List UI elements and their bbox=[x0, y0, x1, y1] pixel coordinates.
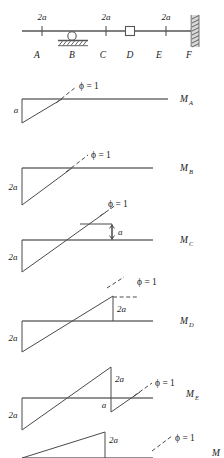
influence-line-M-C: 2a a ϕ = 1 M C bbox=[9, 199, 195, 272]
diagram-label-M-F: M bbox=[211, 448, 221, 458]
phi-label-C: ϕ = 1 bbox=[108, 199, 128, 209]
diagram-label-M-B: M bbox=[179, 163, 189, 173]
node-label-B: B bbox=[69, 50, 75, 60]
span-dimension-3: 2a bbox=[162, 12, 172, 22]
node-label-D: D bbox=[126, 50, 134, 60]
ml-unit-rotation-line-E bbox=[134, 383, 152, 396]
node-label-A: A bbox=[33, 50, 40, 60]
diagram-subscript-E: E bbox=[194, 394, 199, 401]
node-label-E: E bbox=[155, 50, 162, 60]
ordinate-label-a-A: a bbox=[14, 105, 19, 115]
ordinate-label-2a-C: 2a bbox=[9, 252, 19, 262]
diagram-subscript-B: B bbox=[189, 168, 193, 175]
diagram-subscript-C: C bbox=[189, 240, 194, 247]
span-dimension-1: 2a bbox=[38, 12, 48, 22]
roller-support-icon bbox=[58, 32, 88, 46]
phi-label-B: ϕ = 1 bbox=[91, 150, 111, 160]
ml-slope-B bbox=[22, 168, 72, 205]
phi-label-A: ϕ = 1 bbox=[79, 81, 99, 91]
internal-hinge-icon bbox=[126, 27, 135, 36]
ordinate-label-2a-F: 2a bbox=[109, 435, 119, 445]
ordinate-arrow-a-C bbox=[110, 225, 115, 239]
influence-line-M-F: 2a ϕ = 1 M bbox=[22, 432, 221, 458]
diagram-label-M-E: M bbox=[185, 389, 195, 399]
ordinate-label-2a-B: 2a bbox=[9, 182, 19, 192]
ml-unit-rotation-line-A bbox=[56, 87, 76, 103]
ordinate-label-2a-E: 2a bbox=[9, 410, 19, 420]
phi-label-E: ϕ = 1 bbox=[155, 378, 175, 388]
ml-unit-rotation-line-D bbox=[107, 277, 124, 288]
ordinate-label-a-C: a bbox=[118, 227, 123, 237]
ordinate-label-a-E: a bbox=[102, 400, 107, 410]
ml-slope-D bbox=[22, 296, 113, 352]
ordinate-label-2a-D: 2a bbox=[9, 333, 19, 343]
influence-line-M-B: 2a ϕ = 1 M B bbox=[9, 150, 194, 205]
diagram-subscript-A: A bbox=[188, 99, 193, 106]
fixed-support-icon bbox=[192, 15, 200, 47]
diagram-label-M-A: M bbox=[179, 94, 189, 104]
ordinate-label-2a-peak-D: 2a bbox=[117, 304, 127, 314]
diagram-subscript-D: D bbox=[188, 321, 194, 328]
node-label-F: F bbox=[185, 50, 192, 60]
diagram-label-M-D: M bbox=[179, 316, 189, 326]
influence-line-figure: 2a 2a 2a bbox=[0, 0, 224, 458]
ml-slope-C bbox=[22, 212, 106, 272]
phi-label-D: ϕ = 1 bbox=[137, 277, 157, 287]
influence-line-M-D: 2a 2a ϕ = 1 M D bbox=[9, 277, 195, 352]
ordinate-label-2a-peak-E: 2a bbox=[115, 374, 125, 384]
node-label-C: C bbox=[100, 50, 107, 60]
influence-line-M-E: 2a 2a a ϕ = 1 M E bbox=[9, 367, 200, 430]
diagram-label-M-C: M bbox=[179, 235, 189, 245]
influence-line-M-A: a ϕ = 1 M A bbox=[14, 81, 193, 123]
ml-slope-F bbox=[22, 432, 105, 458]
beam-schematic: 2a 2a 2a bbox=[22, 12, 199, 60]
phi-label-F: ϕ = 1 bbox=[175, 433, 195, 443]
ml-unit-rotation-line-F bbox=[152, 436, 172, 451]
span-dimension-2: 2a bbox=[102, 12, 112, 22]
